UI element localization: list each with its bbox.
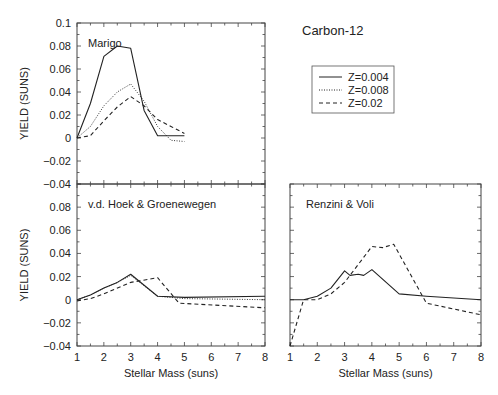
x-tick-label: 1: [287, 351, 293, 363]
y-tick-label: 0.02: [50, 271, 71, 283]
x-tick-label: 8: [262, 351, 268, 363]
panel-renzini-voli: 12345678Stellar Mass (suns)Renzini & Vol…: [287, 184, 484, 379]
legend: Z=0.004 Z=0.008 Z=0.02: [312, 66, 394, 113]
y-tick-label: 0.04: [50, 86, 71, 98]
x-tick-label: 6: [423, 351, 429, 363]
y-tick-label: 0.06: [50, 63, 71, 75]
x-tick-label: 5: [396, 351, 402, 363]
panel-vd-hoek-groenewegen: 0.080.060.040.020−0.02−0.0412345678Stell…: [18, 184, 268, 379]
series-line-dashed: [77, 278, 265, 308]
y-tick-label: −0.02: [43, 155, 71, 167]
x-tick-label: 7: [235, 351, 241, 363]
x-tick-label: 1: [74, 351, 80, 363]
y-tick-label: 0.08: [50, 201, 71, 213]
y-tick-label: 0.08: [50, 40, 71, 52]
x-tick-label: 5: [181, 351, 187, 363]
y-tick-label: 0.1: [56, 17, 71, 29]
legend-label-0: Z=0.004: [348, 71, 389, 83]
panel-label: v.d. Hoek & Groenewegen: [88, 198, 216, 210]
y-tick-label: −0.04: [43, 340, 71, 352]
legend-label-1: Z=0.008: [348, 84, 389, 96]
x-axis-label: Stellar Mass (suns): [338, 367, 432, 379]
y-tick-label: 0: [65, 132, 71, 144]
y-tick-label: −0.02: [43, 317, 71, 329]
panel-label: Renzini & Voli: [306, 198, 374, 210]
figure: Carbon-12 Z=0.004 Z=0.008 Z=0.02 0.10.08…: [0, 0, 498, 395]
x-tick-label: 6: [208, 351, 214, 363]
x-tick-label: 7: [451, 351, 457, 363]
y-tick-label: 0.02: [50, 109, 71, 121]
x-tick-label: 3: [128, 351, 134, 363]
x-tick-label: 2: [101, 351, 107, 363]
series-line-solid: [77, 274, 265, 299]
chart-canvas: Carbon-12 Z=0.004 Z=0.008 Z=0.02 0.10.08…: [0, 0, 498, 395]
x-tick-label: 4: [155, 351, 161, 363]
panel-marigo: 0.10.080.060.040.020−0.02−0.04YIELD (SUN…: [18, 17, 265, 190]
x-tick-label: 4: [369, 351, 375, 363]
y-tick-label: 0.04: [50, 247, 71, 259]
figure-title: Carbon-12: [302, 23, 363, 38]
y-axis-label: YIELD (SUNS): [18, 67, 30, 140]
x-tick-label: 8: [478, 351, 484, 363]
y-axis-label: YIELD (SUNS): [18, 229, 30, 302]
x-tick-label: 2: [314, 351, 320, 363]
series-line-solid: [77, 46, 184, 138]
legend-label-2: Z=0.02: [348, 97, 383, 109]
x-tick-label: 3: [342, 351, 348, 363]
series-line-dotted: [77, 275, 265, 299]
y-tick-label: 0: [65, 294, 71, 306]
series-line-dashed: [77, 97, 184, 138]
y-tick-label: −0.04: [43, 178, 71, 190]
series-line-solid: [290, 270, 481, 300]
y-tick-label: 0.06: [50, 224, 71, 236]
x-axis-label: Stellar Mass (suns): [124, 367, 218, 379]
